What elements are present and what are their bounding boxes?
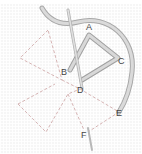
stitch-diagram: A B C D E F [0, 0, 142, 154]
point-label-e: E [116, 108, 122, 118]
point-label-c: C [118, 56, 125, 66]
point-label-a: A [86, 22, 92, 32]
point-label-f: F [81, 130, 87, 140]
point-label-b: B [61, 67, 67, 77]
point-label-d: D [77, 85, 84, 95]
